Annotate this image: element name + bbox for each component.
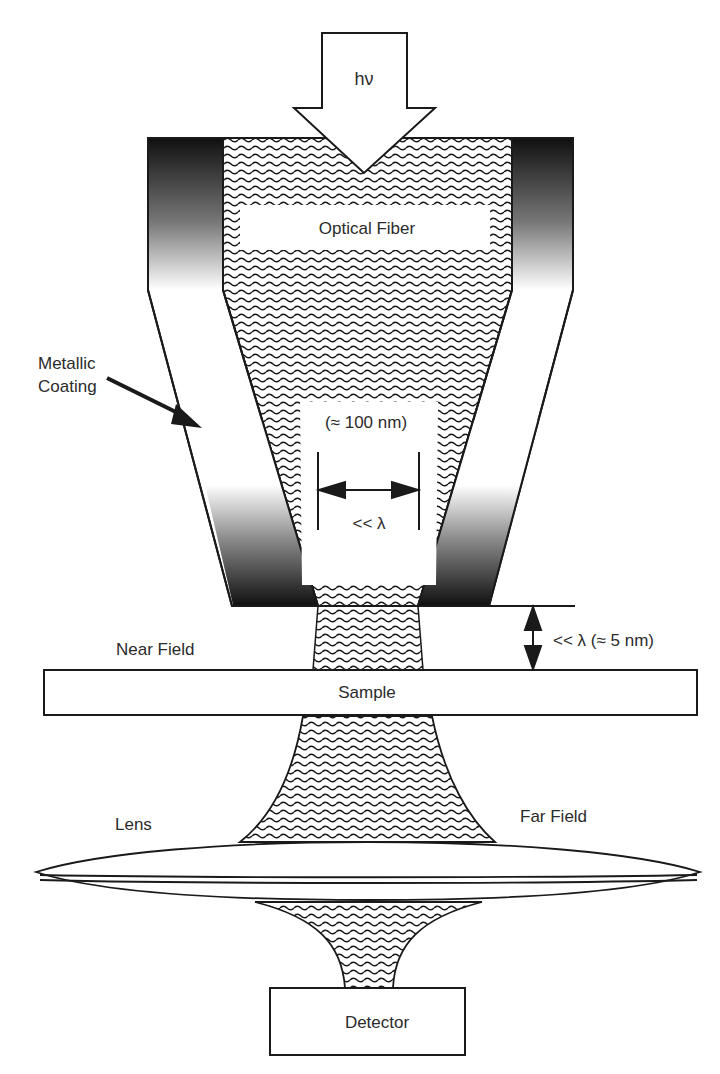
sample-label: Sample [338, 683, 396, 703]
focused-beam [255, 902, 482, 988]
optical-fiber-label: Optical Fiber [319, 219, 415, 239]
photon-label: hν [354, 69, 373, 89]
nsom-diagram [0, 0, 720, 1074]
lens [36, 842, 700, 900]
aperture-size-label: (≈ 100 nm) [325, 413, 407, 433]
detector-label: Detector [345, 1013, 409, 1033]
metallic-coating-label-line1: Metallic [38, 354, 96, 374]
near-field-label: Near Field [116, 640, 194, 660]
lens-label: Lens [115, 815, 152, 835]
metallic-coating-label-line2: Coating [38, 377, 97, 397]
gap-relation-label: << λ (≈ 5 nm) [553, 631, 654, 651]
aperture-relation-label: << λ [352, 514, 385, 534]
near-field-beam [313, 606, 423, 670]
far-field-beam [240, 716, 495, 842]
far-field-label: Far Field [520, 807, 587, 827]
